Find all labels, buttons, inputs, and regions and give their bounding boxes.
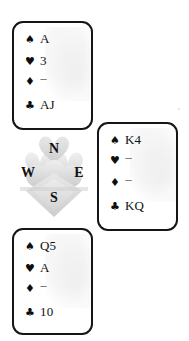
suit-row-diamonds: ♦ --- (25, 76, 91, 98)
suit-row-clubs: ♣ KQ (110, 199, 176, 221)
suit-row-diamonds: ♦ --- (25, 283, 91, 305)
page-speck (178, 108, 180, 110)
suit-row-clubs: ♣ AJ (25, 98, 91, 120)
suit-row-list: ♠ Q5 ♥ A ♦ --- ♣ 10 (14, 230, 91, 327)
south-hearts-value: A (40, 261, 50, 274)
suit-row-list: ♠ K4 ♥ --- ♦ --- ♣ KQ (99, 124, 176, 221)
south-diamonds-value: --- (40, 282, 46, 291)
east-clubs-value: KQ (125, 199, 144, 212)
suit-row-spades: ♠ Q5 (25, 239, 91, 261)
north-hearts-value: 3 (40, 54, 47, 67)
east-diamonds-value: --- (125, 176, 131, 185)
north-diamonds-value: --- (40, 75, 46, 84)
compass-label-west: W (19, 166, 37, 180)
suit-row-clubs: ♣ 10 (25, 305, 91, 327)
diamond-icon: ♦ (25, 283, 40, 294)
heart-icon: ♥ (25, 263, 40, 274)
compass-label-east: E (70, 166, 88, 180)
suit-row-hearts: ♥ 3 (25, 54, 91, 76)
compass-label-north: N (16, 142, 92, 156)
spade-icon: ♠ (25, 34, 40, 45)
east-spades-value: K4 (125, 133, 141, 146)
hand-panel-east: ♠ K4 ♥ --- ♦ --- ♣ KQ (97, 122, 178, 231)
bridge-hand-diagram: ♠ A ♥ 3 ♦ --- ♣ AJ ♠ K4 (0, 0, 189, 341)
suit-row-hearts: ♥ A (25, 261, 91, 283)
hand-panel-north: ♠ A ♥ 3 ♦ --- ♣ AJ (12, 21, 93, 130)
south-spades-value: Q5 (40, 239, 56, 252)
diamond-icon: ♦ (110, 177, 125, 188)
club-icon: ♣ (110, 201, 125, 212)
compass-label-south: S (16, 191, 92, 205)
north-spades-value: A (40, 32, 50, 45)
north-clubs-value: AJ (40, 98, 55, 111)
suit-row-diamonds: ♦ --- (110, 177, 176, 199)
club-icon: ♣ (25, 100, 40, 111)
heart-icon: ♥ (25, 56, 40, 67)
hand-panel-south: ♠ Q5 ♥ A ♦ --- ♣ 10 (12, 228, 93, 335)
suit-row-hearts: ♥ --- (110, 155, 176, 177)
suit-row-spades: ♠ K4 (110, 133, 176, 155)
compass-rose: N W E S (16, 131, 92, 221)
suit-row-spades: ♠ A (25, 32, 91, 54)
heart-icon: ♥ (110, 155, 125, 166)
spade-icon: ♠ (110, 135, 125, 146)
spade-icon: ♠ (25, 241, 40, 252)
club-icon: ♣ (25, 307, 40, 318)
east-hearts-value: --- (125, 154, 131, 163)
suit-row-list: ♠ A ♥ 3 ♦ --- ♣ AJ (14, 23, 91, 120)
south-clubs-value: 10 (40, 305, 53, 318)
diamond-icon: ♦ (25, 76, 40, 87)
